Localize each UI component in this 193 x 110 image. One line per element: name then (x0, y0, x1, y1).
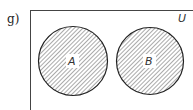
set-b: B (117, 28, 184, 95)
set-a-label: A (67, 55, 76, 68)
universe-label: U (178, 12, 186, 25)
set-a: A (39, 27, 108, 96)
set-b-label: B (145, 55, 153, 68)
venn-diagram: U A B (0, 0, 193, 110)
